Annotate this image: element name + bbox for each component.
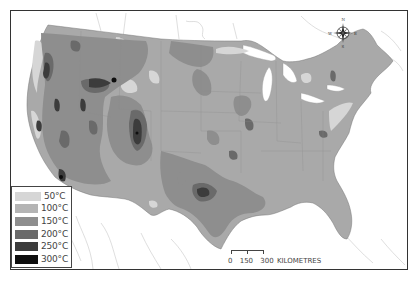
legend-label: 50°C: [44, 192, 65, 201]
legend-swatch-250c: [15, 242, 38, 251]
legend-label: 100°C: [41, 204, 68, 213]
legend-label: 250°C: [41, 242, 68, 251]
legend-item: 250°C: [15, 240, 68, 253]
compass-south: S: [342, 44, 345, 49]
legend-item: 100°C: [15, 203, 68, 216]
compass-west: W: [328, 31, 332, 36]
scale-tick-0: 0: [228, 257, 232, 265]
scale-tick-150: 150: [240, 257, 253, 265]
compass-rose-icon: N S W E: [331, 18, 355, 48]
legend-label: 150°C: [41, 217, 68, 226]
legend-swatch-300c: [15, 255, 38, 264]
scale-unit: KILOMETRES: [277, 257, 321, 265]
legend-swatch-50c: [15, 192, 41, 201]
scale-bar: 0 150 300 KILOMETRES: [228, 246, 348, 266]
legend-label: 300°C: [41, 255, 68, 264]
legend-swatch-150c: [15, 217, 38, 226]
legend-item: 200°C: [15, 228, 68, 241]
legend-swatch-200c: [15, 230, 38, 239]
compass-north: N: [342, 17, 346, 22]
scale-bar-labels: 0 150 300 KILOMETRES: [228, 257, 326, 265]
compass-east: E: [354, 31, 357, 36]
legend-item: 50°C: [15, 190, 68, 203]
legend-swatch-100c: [15, 204, 38, 213]
map-legend: 50°C 100°C 150°C 200°C 250°C 300°C: [11, 186, 72, 268]
legend-item: 150°C: [15, 215, 68, 228]
legend-label: 200°C: [41, 230, 68, 239]
legend-item: 300°C: [15, 253, 68, 266]
scale-tick-300: 300: [260, 257, 273, 265]
scale-bar-midtick: [247, 250, 248, 254]
